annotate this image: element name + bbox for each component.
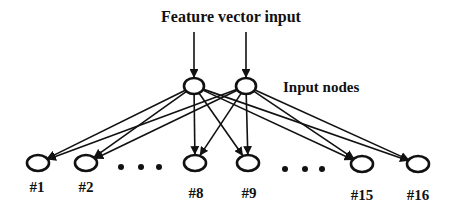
input-node-2 xyxy=(236,78,256,94)
output-label-n8: #8 xyxy=(189,185,204,201)
ellipsis-dot-2-2 xyxy=(302,166,308,172)
edge-in2-to-n9 xyxy=(246,93,248,154)
output-label-n1: #1 xyxy=(30,179,45,195)
edge-in2-to-n15 xyxy=(253,91,354,159)
edges xyxy=(47,32,408,160)
ellipsis-dots xyxy=(118,164,325,172)
neural-network-diagram: Feature vector input Input nodes #1#2#8#… xyxy=(0,0,459,212)
ellipsis-dot-1-2 xyxy=(138,164,144,170)
output-node-n1 xyxy=(27,155,49,171)
title-label: Feature vector input xyxy=(161,8,302,26)
output-label-n16: #16 xyxy=(407,187,430,203)
output-node-n9 xyxy=(237,155,259,171)
output-node-n2 xyxy=(75,155,97,171)
ellipsis-dot-2-3 xyxy=(319,166,325,172)
input-nodes-label: Input nodes xyxy=(283,79,359,95)
ellipsis-dot-1-1 xyxy=(118,164,124,170)
output-node-n15 xyxy=(351,156,373,172)
output-node-n8 xyxy=(184,155,206,171)
edge-in1-to-n2 xyxy=(94,91,187,157)
edge-in1-to-n8 xyxy=(194,93,195,154)
ellipsis-dot-2-1 xyxy=(282,166,288,172)
output-node-n16 xyxy=(407,156,429,172)
input-node-1 xyxy=(184,78,204,94)
diagram-svg: Feature vector input Input nodes #1#2#8#… xyxy=(0,0,459,212)
output-label-n15: #15 xyxy=(351,187,374,203)
output-labels: #1#2#8#9#15#16 xyxy=(30,179,430,203)
edge-in1-to-n16 xyxy=(202,89,408,161)
ellipsis-dot-1-3 xyxy=(156,164,162,170)
output-label-n2: #2 xyxy=(79,179,94,195)
edge-in2-to-n1 xyxy=(48,89,238,159)
output-label-n9: #9 xyxy=(242,185,257,201)
